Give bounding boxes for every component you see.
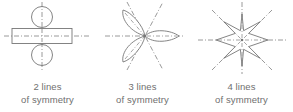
star-center-dot [241,39,244,42]
figure-four-lines: 4 lines of symmetry [190,0,293,112]
caption-line-2: of symmetry [215,94,268,107]
figure-three-lines-canvas [95,0,190,76]
caption-line-1: 2 lines [33,81,61,94]
caption-line-1: 4 lines [227,81,255,94]
caption-line-1: 3 lines [128,81,156,94]
caption-line-2: of symmetry [116,94,169,107]
figure-three-lines: 3 lines of symmetry [95,0,190,112]
figure-two-lines: 2 lines of symmetry [0,0,95,112]
figure-two-lines-canvas [0,0,95,76]
caption-line-2: of symmetry [21,94,74,107]
symmetry-figures-row: 2 lines of symmetry [0,0,293,112]
flower-center-dot [144,35,147,38]
figure-four-lines-canvas [190,0,293,76]
